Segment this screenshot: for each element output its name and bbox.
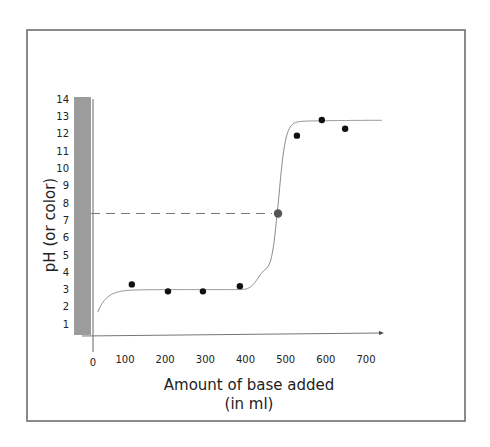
y-axis-title: pH (or color)	[41, 178, 59, 272]
x-tick-label: 600	[316, 354, 335, 365]
y-tick-label: 7	[63, 215, 69, 226]
data-point	[237, 283, 243, 289]
x-axis-arrowhead-icon	[379, 331, 384, 335]
data-points	[129, 117, 349, 295]
y-tick-label: 1	[63, 319, 69, 330]
x-tick-label: 0	[90, 357, 96, 368]
y-tick-label: 8	[63, 198, 69, 209]
x-tick-label: 500	[276, 354, 295, 365]
y-tick-label: 5	[63, 250, 69, 261]
data-point	[165, 288, 171, 294]
ph-color-bar	[74, 97, 91, 335]
x-tick-labels: 0100200300400500600700	[90, 354, 376, 368]
data-point	[200, 288, 206, 294]
data-point	[342, 126, 348, 132]
y-tick-label: 12	[56, 128, 69, 139]
y-tick-label: 14	[56, 94, 69, 105]
y-tick-label: 2	[63, 301, 69, 312]
y-tick-label: 6	[63, 232, 69, 243]
x-axis-line	[82, 333, 381, 336]
x-tick-label: 300	[196, 354, 215, 365]
equivalence-point	[274, 209, 282, 217]
y-tick-label: 11	[56, 146, 69, 157]
data-point	[319, 117, 325, 123]
y-tick-label: 9	[63, 180, 69, 191]
data-point	[129, 281, 135, 287]
data-point	[294, 132, 300, 138]
y-tick-label: 13	[56, 111, 69, 122]
x-axis-title: Amount of base added	[164, 376, 334, 394]
x-axis-title-unit: (in ml)	[225, 395, 274, 413]
x-tick-label: 200	[156, 354, 175, 365]
y-tick-label: 3	[63, 284, 69, 295]
x-tick-label: 400	[236, 354, 255, 365]
chart-figure: 1413121110987654321 01002003004005006007…	[0, 0, 490, 447]
y-tick-label: 4	[63, 267, 69, 278]
x-tick-label: 100	[115, 354, 134, 365]
y-tick-label: 10	[56, 163, 69, 174]
x-tick-label: 700	[356, 354, 375, 365]
